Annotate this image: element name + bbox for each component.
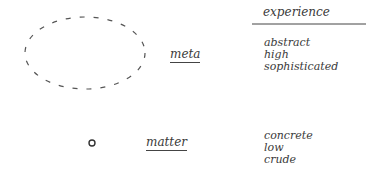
matter-label: matter xyxy=(146,136,187,151)
meta-label: meta xyxy=(170,48,200,63)
attribute-item: sophisticated xyxy=(264,61,338,73)
experience-header: experience xyxy=(263,6,330,18)
matter-attributes: concrete low crude xyxy=(264,130,313,166)
meta-dashed-ellipse xyxy=(25,17,145,89)
diagram-canvas xyxy=(0,0,384,184)
meta-attributes: abstract high sophisticated xyxy=(264,37,338,73)
matter-small-circle xyxy=(89,140,95,146)
attribute-item: crude xyxy=(264,154,313,166)
